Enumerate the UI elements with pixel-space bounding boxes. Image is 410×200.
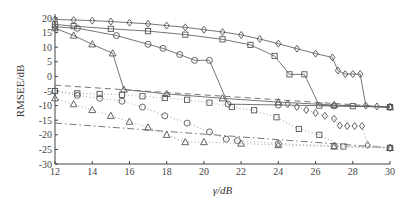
square-marker: [185, 97, 190, 102]
diamond-marker: [359, 123, 364, 130]
y-tick-label: 0: [47, 71, 52, 82]
y-tick-label: 15: [42, 27, 52, 38]
triangle-marker: [163, 131, 170, 137]
x-tick-label: 14: [87, 166, 97, 177]
y-tick-label: -10: [39, 100, 52, 111]
diamond-marker: [337, 122, 342, 129]
series-diamond-solid: [52, 16, 392, 111]
series-triangle-solid: [52, 25, 394, 110]
triangle-marker: [70, 101, 77, 107]
circle-marker: [206, 129, 212, 135]
circle-marker: [162, 113, 168, 119]
y-tick-label: -25: [39, 144, 52, 155]
x-tick-label: 16: [124, 166, 134, 177]
circle-marker: [139, 104, 145, 110]
y-tick-label: 5: [47, 56, 52, 67]
x-tick-label: 24: [273, 166, 283, 177]
x-tick-label: 18: [162, 166, 172, 177]
x-tick-label: 22: [236, 166, 246, 177]
plot-area: 1214161820222426283020151050-5-10-15-20-…: [0, 0, 410, 200]
circle-marker: [119, 98, 125, 104]
y-tick-label: 20: [42, 13, 52, 24]
chart-figure: 1214161820222426283020151050-5-10-15-20-…: [0, 0, 410, 200]
series-square-dotted: [52, 88, 392, 150]
diamond-marker: [332, 115, 337, 122]
x-tick-label: 26: [311, 166, 321, 177]
series-line: [55, 91, 390, 148]
y-tick-label: 10: [42, 42, 52, 53]
x-tick-label: 20: [199, 166, 209, 177]
series-lower-dashdot: [55, 123, 390, 148]
series-upper-dashed: [55, 85, 390, 107]
series-line: [55, 91, 390, 148]
y-tick-label: -20: [39, 129, 52, 140]
series-line: [55, 85, 390, 107]
x-tick-label: 30: [385, 166, 395, 177]
y-tick-label: -30: [39, 159, 52, 170]
y-axis-label: RMSEE/dB: [14, 65, 26, 118]
triangle-marker: [200, 139, 207, 145]
series-line: [55, 123, 390, 148]
series-circle-dotted: [52, 88, 393, 151]
diamond-marker: [313, 109, 318, 116]
x-tick-label: 28: [348, 166, 358, 177]
series-triangle-dotted: [52, 95, 394, 151]
diamond-marker: [294, 104, 299, 111]
x-axis-label: γ/dB: [213, 184, 233, 196]
y-tick-label: -15: [39, 115, 52, 126]
square-marker: [274, 115, 279, 120]
y-tick-label: -5: [44, 86, 52, 97]
triangle-marker: [89, 41, 96, 47]
